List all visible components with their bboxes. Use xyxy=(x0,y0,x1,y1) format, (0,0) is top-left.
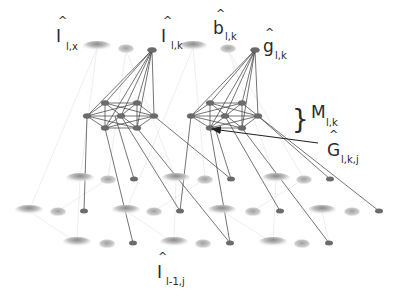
blob-unit xyxy=(220,45,236,54)
svg-text:l,k: l,k xyxy=(275,50,287,61)
label-i-lk: ^ I l,k xyxy=(161,14,183,51)
label-i-lx: ^ I l,x xyxy=(56,14,78,52)
svg-text:b: b xyxy=(213,18,224,38)
svg-text:l,k: l,k xyxy=(326,117,338,128)
label-b-lk: ^ b l,k xyxy=(213,7,237,42)
label-G-lkj: ^ G l,k,j xyxy=(327,128,359,165)
svg-text:I: I xyxy=(157,262,162,282)
svg-text:l,x: l,x xyxy=(66,41,78,52)
svg-text:g: g xyxy=(263,36,274,56)
cloud-unit xyxy=(179,41,207,51)
top-row-units xyxy=(83,41,236,54)
blob-unit xyxy=(118,45,134,54)
label-m-lk: M l,k xyxy=(311,102,338,128)
faint-connections xyxy=(29,48,329,243)
svg-text:G: G xyxy=(327,140,340,160)
svg-text:l,k: l,k xyxy=(171,40,183,51)
brace-icon: } xyxy=(292,104,309,134)
label-i-l1j: ^ I l-1,j xyxy=(157,250,185,287)
svg-text:I: I xyxy=(161,26,166,46)
svg-text:I: I xyxy=(56,26,61,46)
network-diagram: } ^ I l,x ^ I l,k ^ b l,k ^ g l,k M l,k … xyxy=(0,0,400,294)
module-nodes xyxy=(83,48,262,131)
svg-text:l,k: l,k xyxy=(225,31,237,42)
svg-text:M: M xyxy=(311,102,326,122)
svg-text:l-1,j: l-1,j xyxy=(166,276,185,287)
cloud-unit xyxy=(83,41,111,51)
svg-text:l,k,j: l,k,j xyxy=(341,154,359,165)
label-g-lk: ^ g l,k xyxy=(263,26,287,61)
